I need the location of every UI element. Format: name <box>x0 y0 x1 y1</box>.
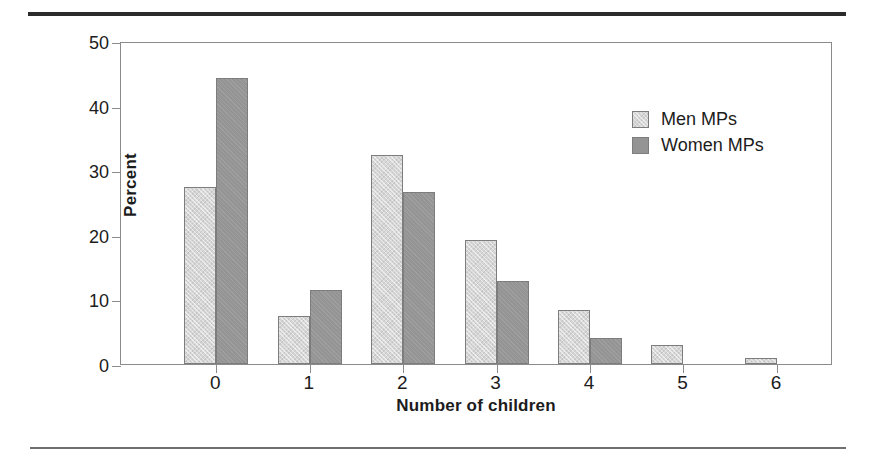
top-divider-rule <box>28 12 846 16</box>
plot-area: Percent 01020304050 <box>120 42 832 365</box>
bar-men-mps-4 <box>558 310 590 364</box>
y-tick-label: 40 <box>65 99 109 117</box>
x-axis-title: Number of children <box>120 396 832 416</box>
y-tick-mark <box>112 43 121 44</box>
bar-women-mps-0 <box>216 78 248 364</box>
legend-item: Men MPs <box>632 106 764 132</box>
x-tick-label: 1 <box>279 372 339 394</box>
x-tick-label: 5 <box>652 372 712 394</box>
y-axis-title: Percent <box>121 105 141 265</box>
bar-men-mps-5 <box>651 345 683 364</box>
bar-women-mps-2 <box>403 192 435 364</box>
y-tick-label: 50 <box>65 34 109 52</box>
y-tick-mark <box>112 366 121 367</box>
x-tick-label: 3 <box>466 372 526 394</box>
chart-legend: Men MPsWomen MPs <box>632 106 764 158</box>
legend-label: Men MPs <box>661 109 737 130</box>
bottom-divider-rule <box>30 447 846 449</box>
y-tick-mark <box>112 237 121 238</box>
figure-container: Percent 01020304050 0123456 Number of ch… <box>0 0 870 466</box>
y-tick-mark <box>112 108 121 109</box>
y-tick-label: 0 <box>65 357 109 375</box>
bar-women-mps-3 <box>497 281 529 364</box>
bar-men-mps-0 <box>184 187 216 364</box>
x-tick-label: 4 <box>559 372 619 394</box>
legend-item: Women MPs <box>632 132 764 158</box>
y-tick-label: 30 <box>65 163 109 181</box>
bar-men-mps-3 <box>465 240 497 364</box>
bar-women-mps-4 <box>590 338 622 364</box>
y-tick-mark <box>112 301 121 302</box>
y-tick-mark <box>112 172 121 173</box>
x-tick-label: 0 <box>185 372 245 394</box>
legend-swatch-icon <box>632 137 649 154</box>
legend-swatch-icon <box>632 111 649 128</box>
bar-men-mps-2 <box>371 155 403 364</box>
y-tick-label: 20 <box>65 228 109 246</box>
bar-men-mps-6 <box>745 358 777 364</box>
x-tick-label: 6 <box>746 372 806 394</box>
bar-men-mps-1 <box>278 316 310 364</box>
x-tick-label: 2 <box>372 372 432 394</box>
y-tick-label: 10 <box>65 292 109 310</box>
bar-women-mps-1 <box>310 290 342 364</box>
legend-label: Women MPs <box>661 135 764 156</box>
